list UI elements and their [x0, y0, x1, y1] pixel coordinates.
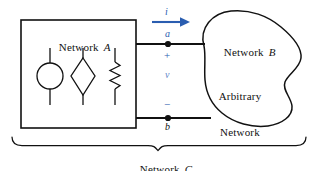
terminal-b-label: b	[165, 122, 170, 133]
network-b-label-letter: B	[269, 46, 276, 58]
network-a-label-letter: A	[104, 41, 111, 53]
current-arrow-icon	[152, 17, 190, 27]
network-b-label-text: Network	[224, 46, 264, 58]
polarity-minus-label: −	[164, 99, 170, 111]
terminal-node-a-dot	[165, 41, 171, 47]
resistor-symbol	[110, 48, 120, 105]
network-b-sublabel-line1: Arbitrary	[211, 91, 269, 103]
network-c-label-text: Network	[140, 163, 180, 171]
network-b-label: NetworkB	[212, 35, 276, 70]
current-symbol-label: i	[165, 7, 168, 18]
terminal-a-label: a	[165, 29, 170, 40]
network-c-label-letter: C	[185, 163, 193, 171]
voltage-symbol-label: v	[165, 70, 169, 81]
network-c-label: NetworkC	[128, 152, 192, 171]
network-a-label-text: Network	[59, 41, 99, 53]
diagram-canvas	[0, 0, 317, 171]
network-b-sublabel-line2: Network	[211, 127, 269, 139]
polarity-plus-label: +	[164, 50, 170, 62]
circuit-diagram-figure: NetworkA NetworkB Arbitrary Network Netw…	[0, 0, 317, 171]
network-b-sublabel: Arbitrary Network	[211, 68, 269, 161]
network-a-label: NetworkA	[47, 30, 111, 65]
